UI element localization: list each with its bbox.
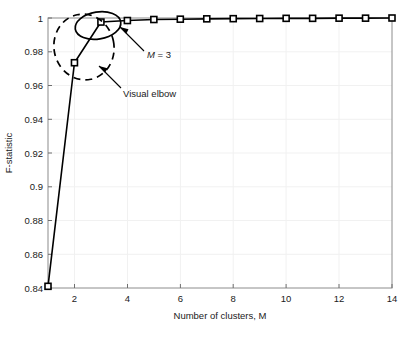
- data-point-marker: [283, 15, 289, 21]
- data-point-marker: [124, 18, 130, 24]
- data-point-marker: [230, 16, 236, 22]
- data-point-marker: [336, 15, 342, 21]
- data-point-marker: [71, 60, 77, 66]
- y-tick-label: 0.86: [25, 249, 44, 260]
- x-tick-label: 10: [281, 293, 292, 304]
- y-tick-label: 0.88: [25, 215, 44, 226]
- data-point-marker: [389, 15, 395, 21]
- figure-root: 1 0.98 0.96 0.94 0.92 0.9 0.88 0.86 0.84…: [0, 0, 413, 339]
- x-tick-label: 12: [334, 293, 345, 304]
- x-tick-labels: 2 4 6 8 10 12 14: [72, 293, 397, 304]
- data-point-marker: [204, 16, 210, 22]
- y-tick-label: 0.94: [25, 114, 44, 125]
- data-point-marker: [257, 16, 263, 22]
- y-tick-label: 0.9: [30, 181, 43, 192]
- annotation-label-m3: M = 3: [147, 49, 171, 60]
- x-tick-label: 6: [178, 293, 183, 304]
- annotation-m3-variable: M: [147, 49, 155, 60]
- data-point-marker: [177, 16, 183, 22]
- data-point-marker: [151, 17, 157, 23]
- x-axis-label: Number of clusters, M: [174, 310, 267, 321]
- data-point-marker: [363, 15, 369, 21]
- y-tick-label: 0.92: [25, 148, 44, 159]
- y-tick-labels: 1 0.98 0.96 0.94 0.92 0.9 0.88 0.86 0.84: [25, 13, 44, 294]
- x-tick-label: 4: [125, 293, 130, 304]
- y-axis-label: F-statistic: [3, 132, 14, 173]
- y-tick-label: 1: [38, 13, 43, 24]
- annotation-label-visual-elbow: Visual elbow: [123, 88, 176, 99]
- x-tick-label: 2: [72, 293, 77, 304]
- data-point-marker: [310, 15, 316, 21]
- annotation-m3-value: = 3: [155, 49, 171, 60]
- x-tick-label: 14: [387, 293, 398, 304]
- y-tick-label: 0.98: [25, 46, 44, 57]
- data-point-marker: [45, 283, 51, 289]
- x-tick-label: 8: [231, 293, 236, 304]
- y-tick-label: 0.84: [25, 283, 44, 294]
- y-tick-label: 0.96: [25, 80, 44, 91]
